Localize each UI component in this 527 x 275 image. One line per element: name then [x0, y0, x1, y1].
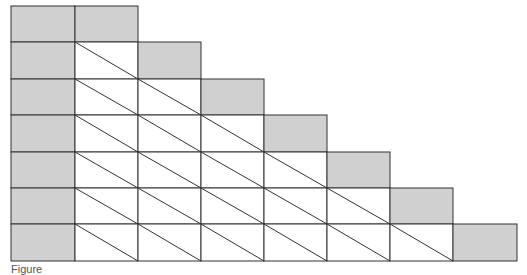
diagonal-cell [201, 115, 264, 152]
diagonal-cell [390, 224, 453, 261]
diagonal-cell [201, 224, 264, 261]
diagonal-cell [138, 115, 201, 152]
shaded-cell [11, 6, 75, 42]
shaded-cell [327, 152, 390, 188]
diagonal-cell [75, 79, 138, 115]
diagonal-cell [264, 188, 327, 224]
diagonal-cell [75, 152, 138, 188]
diagonal-cell [138, 79, 201, 115]
shaded-cell [75, 6, 138, 42]
shaded-cell [390, 188, 453, 224]
diagonal-cell [75, 188, 138, 224]
shaded-cell [11, 79, 75, 115]
shaded-cell [11, 152, 75, 188]
shaded-cell [264, 115, 327, 152]
diagonal-cell [75, 42, 138, 79]
shaded-cell [453, 224, 517, 261]
diagonal-cell [138, 188, 201, 224]
shaded-cell [11, 115, 75, 152]
diagonal-cell [327, 188, 390, 224]
diagonal-cell [327, 224, 390, 261]
diagonal-cell [264, 224, 327, 261]
shaded-cell [201, 79, 264, 115]
shaded-cell [11, 224, 75, 261]
diagonal-cell [201, 152, 264, 188]
diagonal-cell [75, 115, 138, 152]
shaded-cell [138, 42, 201, 79]
figure-caption: Figure [11, 263, 42, 275]
diagonal-cell [138, 224, 201, 261]
diagonal-cell [75, 224, 138, 261]
shaded-cell [11, 42, 75, 79]
shaded-cell [11, 188, 75, 224]
diagonal-cell [201, 188, 264, 224]
diagonal-cell [264, 152, 327, 188]
diagonal-cell [138, 152, 201, 188]
